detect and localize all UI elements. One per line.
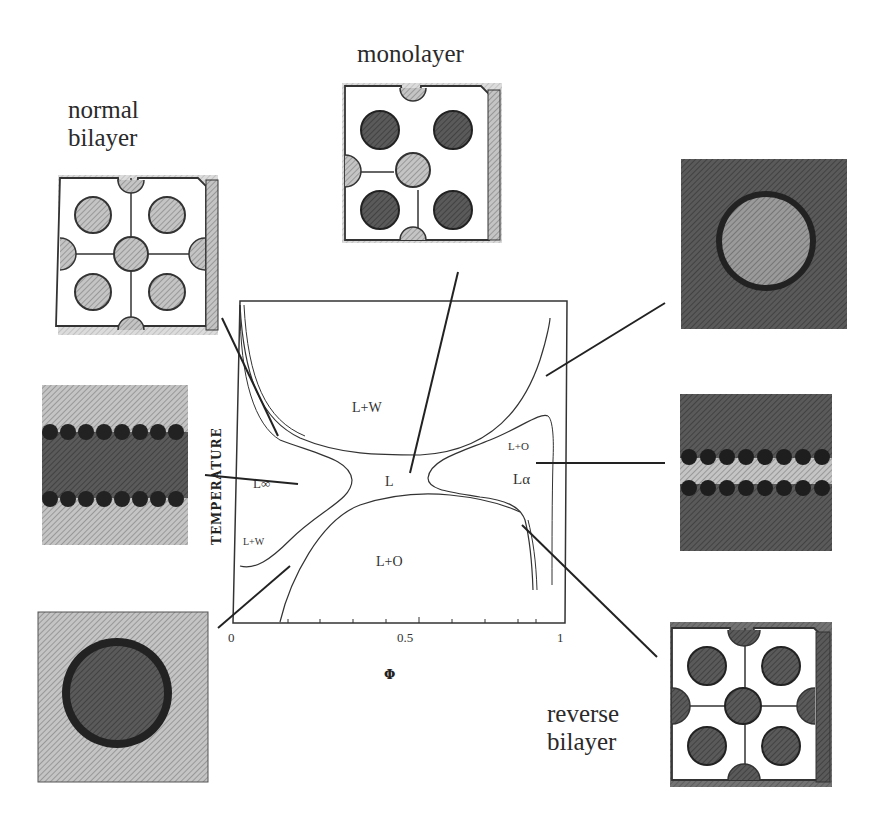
phase-diagram: L+W L L+O L∞ L+W L+O Lα [233, 301, 567, 623]
figure-canvas: L+W L L+O L∞ L+W L+O Lα [0, 0, 885, 824]
normal-bilayer-cubic-inset [56, 175, 218, 335]
connector-lines [205, 272, 665, 657]
region-label-l-inf: L∞ [253, 476, 270, 491]
connector-oil-in-water [546, 303, 665, 376]
connector-monolayer [410, 272, 458, 473]
connector-water-in-oil [218, 566, 290, 628]
lamellar-bilayer-right-inset [680, 394, 832, 551]
region-label-l-center: L [385, 474, 394, 489]
monolayer-cubic-inset [342, 83, 502, 243]
lamellar-bilayer-left-inset [42, 385, 188, 545]
region-label-l-alpha: Lα [513, 471, 530, 487]
y-axis-label: TEMPERATURE [210, 427, 224, 545]
x-tick-0: 0 [228, 630, 235, 646]
region-label-lo-right: L+O [508, 440, 529, 452]
region-label-lo-bottom: L+O [376, 554, 403, 569]
region-label-lw-top: L+W [352, 400, 382, 415]
connector-reverse-bilayer [522, 525, 657, 657]
x-tick-1: 1 [557, 630, 564, 646]
plot-frame [233, 301, 567, 623]
reverse-bilayer-cubic-inset [670, 622, 832, 787]
connector-normal-bilayer [222, 318, 278, 436]
x-axis-label: Φ [384, 667, 395, 682]
x-tick-0-5: 0.5 [397, 630, 413, 646]
water-in-oil-micelle-inset [38, 612, 208, 782]
region-label-lw-left: L+W [243, 536, 265, 547]
oil-in-water-micelle-inset [681, 159, 847, 329]
